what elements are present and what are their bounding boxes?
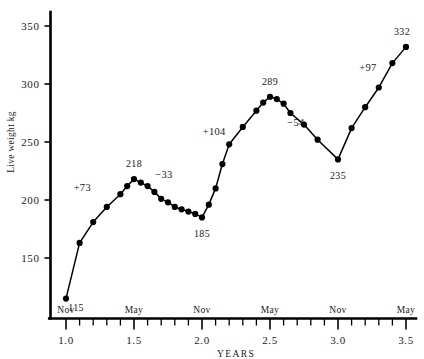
x-axis-tick-label: 2.0 (194, 334, 210, 346)
data-point-marker (185, 209, 191, 215)
y-axis-tick-label: 350 (21, 20, 39, 32)
data-point-marker (281, 101, 287, 107)
x-axis-tick-label: 3.0 (330, 334, 346, 346)
data-point-label: 332 (394, 26, 410, 37)
season-label: May (261, 305, 279, 315)
data-point-label: 218 (126, 158, 142, 169)
data-point-marker (226, 141, 232, 147)
data-point-label: 185 (194, 228, 210, 239)
data-point-marker (287, 110, 293, 116)
data-point-marker (172, 204, 178, 210)
y-axis-tick-label: 150 (21, 252, 39, 264)
data-point-marker (253, 108, 259, 114)
x-axis-tick-label: 1.0 (58, 334, 74, 346)
data-point-marker (267, 94, 273, 100)
x-axis-tick-label: 2.5 (262, 334, 278, 346)
weight-change-label: +97 (359, 62, 376, 73)
data-point-marker (117, 191, 123, 197)
series-line (66, 47, 406, 299)
data-point-marker (145, 183, 151, 189)
data-point-marker (151, 189, 157, 195)
data-point-marker (315, 137, 321, 143)
y-axis-tick-label: 200 (21, 194, 39, 206)
data-point-marker (213, 185, 219, 191)
x-axis-title: YEARS (217, 349, 255, 359)
data-point-marker (104, 204, 110, 210)
data-point-marker (240, 124, 246, 130)
season-label: May (397, 305, 415, 315)
data-point-marker (206, 202, 212, 208)
data-point-marker (90, 219, 96, 225)
weight-change-label: −33 (155, 169, 172, 180)
data-point-marker (362, 104, 368, 110)
labels-group: 1502002503003501.01.52.02.53.03.5NovMayN… (6, 20, 415, 359)
data-point-marker (192, 211, 198, 217)
data-point-marker (349, 125, 355, 131)
weight-change-label: +104 (203, 126, 226, 137)
data-point-label: 115 (68, 302, 84, 313)
data-point-marker (124, 183, 130, 189)
x-axis-tick-label: 3.5 (398, 334, 414, 346)
data-point-marker (199, 214, 205, 220)
data-series-group (63, 44, 409, 302)
data-point-marker (165, 199, 171, 205)
season-label: May (125, 305, 143, 315)
data-point-marker (335, 156, 341, 162)
chart-plot-area: 1502002503003501.01.52.02.53.03.5NovMayN… (0, 0, 424, 359)
data-point-marker (77, 240, 83, 246)
y-axis-title: Live weight kg (6, 111, 16, 173)
y-axis-tick-label: 300 (21, 78, 39, 90)
data-point-marker (219, 161, 225, 167)
y-axis-tick-label: 250 (21, 136, 39, 148)
data-point-marker (131, 176, 137, 182)
weight-change-label: −54 (287, 117, 305, 128)
data-point-marker (158, 196, 164, 202)
data-point-marker (274, 96, 280, 102)
data-point-marker (179, 206, 185, 212)
data-point-marker (260, 99, 266, 105)
ticks-group (45, 26, 407, 330)
data-point-marker (138, 180, 144, 186)
weight-change-label: +73 (74, 182, 91, 193)
axes-group (49, 12, 416, 319)
live-weight-growth-chart: 1502002503003501.01.52.02.53.03.5NovMayN… (0, 0, 424, 359)
season-label: Nov (329, 305, 346, 315)
season-label: Nov (193, 305, 210, 315)
x-axis-tick-label: 1.5 (126, 334, 142, 346)
data-point-label: 289 (262, 76, 278, 87)
data-point-marker (389, 60, 395, 66)
data-point-marker (403, 44, 409, 50)
data-point-label: 235 (330, 170, 346, 181)
data-point-marker (376, 84, 382, 90)
